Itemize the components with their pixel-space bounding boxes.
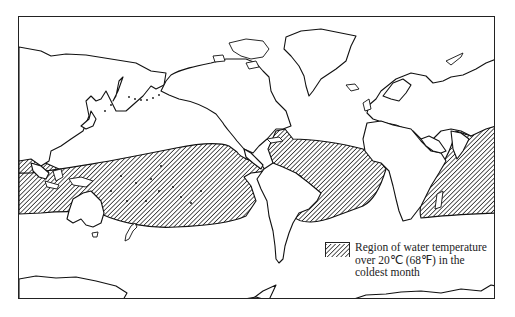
landmass-greenland: [284, 29, 356, 96]
landmass-asia-east: [19, 47, 166, 166]
legend-line-3: coldest month: [355, 266, 505, 279]
legend-line-1: Region of water temperature: [355, 241, 505, 254]
landmass-new-zealand: [125, 223, 137, 241]
legend-line-2: over 20℃ (68℉) in the: [355, 254, 505, 267]
legend-label: Region of water temperature over 20℃ (68…: [355, 241, 505, 279]
landmass-british-isles: [363, 99, 371, 111]
landmass-antarctica: [19, 276, 127, 299]
landmass-tasmania: [92, 232, 98, 237]
landmass-iceland: [346, 84, 359, 91]
hatch-pattern-icon: [326, 244, 349, 257]
landmass-arctic-islands: [229, 39, 269, 59]
legend-hatch-swatch: [325, 242, 350, 257]
